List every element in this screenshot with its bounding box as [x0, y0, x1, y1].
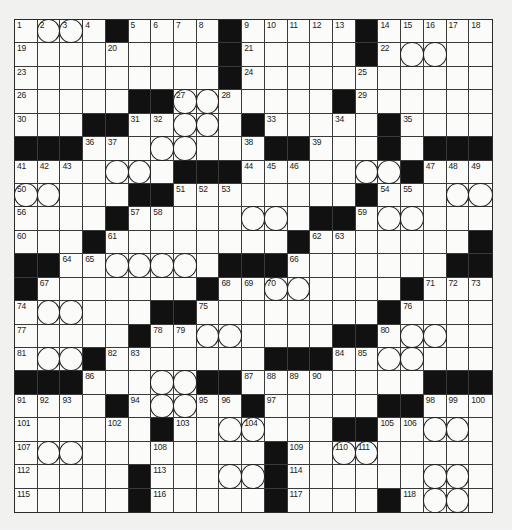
grid-cell[interactable] [424, 301, 447, 324]
grid-cell[interactable] [219, 207, 242, 230]
grid-cell[interactable]: 72 [447, 278, 470, 301]
grid-cell[interactable] [38, 90, 61, 113]
grid-cell[interactable] [60, 207, 83, 230]
grid-cell[interactable]: 5 [129, 20, 152, 43]
grid-cell[interactable] [265, 325, 288, 348]
grid-cell[interactable]: 114 [288, 465, 311, 488]
grid-cell[interactable]: 69 [242, 278, 265, 301]
grid-cell[interactable] [469, 301, 492, 324]
grid-cell[interactable]: 90 [310, 371, 333, 394]
grid-cell[interactable]: 29 [356, 90, 379, 113]
grid-cell[interactable]: 55 [401, 184, 424, 207]
circled-cell[interactable] [38, 442, 61, 465]
grid-cell[interactable] [60, 418, 83, 441]
grid-cell[interactable]: 23 [15, 67, 38, 90]
circled-cell[interactable] [447, 465, 470, 488]
grid-cell[interactable]: 108 [151, 442, 174, 465]
grid-cell[interactable] [333, 137, 356, 160]
grid-cell[interactable] [242, 184, 265, 207]
grid-cell[interactable]: 78 [151, 325, 174, 348]
grid-cell[interactable] [288, 418, 311, 441]
grid-cell[interactable]: 34 [333, 114, 356, 137]
grid-cell[interactable]: 57 [129, 207, 152, 230]
grid-cell[interactable]: 66 [288, 254, 311, 277]
grid-cell[interactable] [129, 418, 152, 441]
grid-cell[interactable] [378, 67, 401, 90]
grid-cell[interactable]: 97 [265, 395, 288, 418]
grid-cell[interactable] [469, 348, 492, 371]
grid-cell[interactable]: 81 [15, 348, 38, 371]
grid-cell[interactable] [356, 114, 379, 137]
grid-cell[interactable] [174, 348, 197, 371]
grid-cell[interactable] [129, 231, 152, 254]
grid-cell[interactable] [265, 301, 288, 324]
grid-cell[interactable] [129, 278, 152, 301]
grid-cell[interactable]: 7 [174, 20, 197, 43]
grid-cell[interactable] [310, 395, 333, 418]
grid-cell[interactable] [469, 465, 492, 488]
grid-cell[interactable] [447, 231, 470, 254]
grid-cell[interactable] [310, 489, 333, 512]
circled-cell[interactable] [174, 114, 197, 137]
grid-cell[interactable] [401, 442, 424, 465]
grid-cell[interactable] [83, 43, 106, 66]
grid-cell[interactable] [378, 231, 401, 254]
circled-cell[interactable] [378, 348, 401, 371]
grid-cell[interactable] [424, 254, 447, 277]
circled-cell[interactable] [447, 418, 470, 441]
grid-cell[interactable] [242, 325, 265, 348]
grid-cell[interactable] [242, 489, 265, 512]
grid-cell[interactable] [356, 489, 379, 512]
grid-cell[interactable] [83, 67, 106, 90]
grid-cell[interactable] [197, 442, 220, 465]
grid-cell[interactable] [356, 465, 379, 488]
circled-cell[interactable] [219, 465, 242, 488]
grid-cell[interactable]: 46 [288, 161, 311, 184]
grid-cell[interactable] [310, 184, 333, 207]
grid-cell[interactable] [447, 207, 470, 230]
grid-cell[interactable]: 41 [15, 161, 38, 184]
grid-cell[interactable]: 42 [38, 161, 61, 184]
grid-cell[interactable]: 107 [15, 442, 38, 465]
grid-cell[interactable] [265, 90, 288, 113]
grid-cell[interactable]: 20 [106, 43, 129, 66]
circled-cell[interactable] [469, 184, 492, 207]
circled-cell[interactable]: 104 [242, 418, 265, 441]
grid-cell[interactable] [401, 67, 424, 90]
grid-cell[interactable]: 83 [129, 348, 152, 371]
circled-cell[interactable] [424, 43, 447, 66]
grid-cell[interactable] [401, 90, 424, 113]
circled-cell[interactable] [424, 489, 447, 512]
grid-cell[interactable] [197, 489, 220, 512]
circled-cell[interactable] [197, 90, 220, 113]
grid-cell[interactable] [469, 207, 492, 230]
grid-cell[interactable]: 99 [447, 395, 470, 418]
grid-cell[interactable]: 26 [15, 90, 38, 113]
grid-cell[interactable] [288, 90, 311, 113]
grid-cell[interactable] [106, 371, 129, 394]
grid-cell[interactable] [333, 254, 356, 277]
circled-cell[interactable] [288, 278, 311, 301]
grid-cell[interactable] [219, 489, 242, 512]
circled-cell[interactable] [38, 348, 61, 371]
grid-cell[interactable] [197, 418, 220, 441]
circled-cell[interactable] [401, 348, 424, 371]
grid-cell[interactable]: 68 [219, 278, 242, 301]
grid-cell[interactable]: 4 [83, 20, 106, 43]
grid-cell[interactable] [197, 231, 220, 254]
circled-cell[interactable] [129, 254, 152, 277]
grid-cell[interactable]: 118 [401, 489, 424, 512]
grid-cell[interactable] [174, 67, 197, 90]
grid-cell[interactable] [83, 278, 106, 301]
grid-cell[interactable]: 105 [378, 418, 401, 441]
circled-cell[interactable] [174, 137, 197, 160]
grid-cell[interactable] [469, 114, 492, 137]
grid-cell[interactable]: 75 [197, 301, 220, 324]
grid-cell[interactable]: 31 [129, 114, 152, 137]
circled-cell[interactable]: 70 [265, 278, 288, 301]
grid-cell[interactable] [197, 43, 220, 66]
grid-cell[interactable] [38, 207, 61, 230]
grid-cell[interactable] [151, 278, 174, 301]
grid-cell[interactable]: 65 [83, 254, 106, 277]
grid-cell[interactable] [288, 395, 311, 418]
